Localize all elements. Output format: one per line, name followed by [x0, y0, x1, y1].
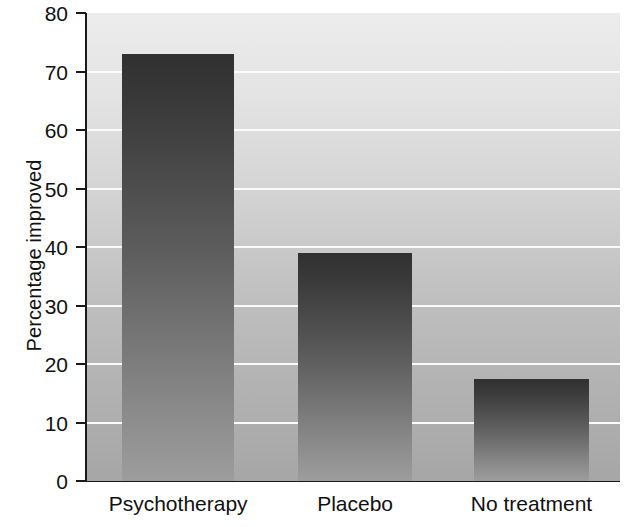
y-axis-tick-mark	[76, 305, 86, 307]
y-axis-tick-label: 80	[45, 3, 68, 24]
bar	[122, 54, 234, 481]
y-axis-tick-mark	[76, 188, 86, 190]
x-axis-tick-label: Psychotherapy	[109, 492, 248, 516]
y-axis-tick-label: 20	[45, 354, 68, 375]
y-axis-tick-label: 40	[45, 237, 68, 258]
x-axis-tick-label: Placebo	[317, 492, 393, 516]
y-axis-tick-label-group: 01020304050607080	[0, 0, 78, 527]
y-axis-tick-label: 60	[45, 120, 68, 141]
y-axis-tick-mark	[76, 71, 86, 73]
y-axis-tick-mark	[76, 480, 86, 482]
x-axis-tick-label: No treatment	[471, 492, 592, 516]
y-axis-tick-mark	[76, 422, 86, 424]
y-axis-tick-label: 0	[56, 471, 68, 492]
y-axis-tick-label: 70	[45, 61, 68, 82]
y-axis-tick-label: 50	[45, 178, 68, 199]
y-axis-tick-mark	[76, 12, 86, 14]
y-axis-tick-mark	[76, 246, 86, 248]
plot-area	[87, 13, 620, 481]
y-axis-tick-mark	[76, 129, 86, 131]
bar	[298, 253, 412, 481]
bar-chart-figure: Percentage improved 01020304050607080 Ps…	[0, 0, 626, 527]
y-axis-tick-label: 30	[45, 295, 68, 316]
y-axis-tick-mark	[76, 363, 86, 365]
x-axis-tick-label-group: PsychotherapyPlaceboNo treatment	[87, 492, 620, 524]
bar	[474, 379, 589, 481]
y-axis-tick-label: 10	[45, 412, 68, 433]
